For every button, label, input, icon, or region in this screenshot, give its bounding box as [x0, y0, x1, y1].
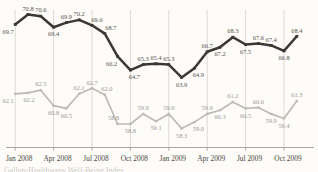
- upper-dark-series-value-label: 67.6: [253, 34, 264, 41]
- lower-gray-series-marker: [206, 113, 208, 115]
- upper-dark-series-value-label: 70.8: [22, 5, 33, 12]
- upper-dark-series-marker: [206, 50, 209, 53]
- lower-gray-series-marker: [129, 123, 131, 125]
- lower-gray-series-value-label: 59.9: [138, 104, 149, 111]
- lower-gray-series-value-label: 59.0: [193, 125, 204, 132]
- lower-gray-series-value-label: 62.7: [86, 79, 98, 86]
- upper-dark-series-value-label: 69.7: [3, 28, 15, 35]
- lower-gray-series-marker: [244, 107, 246, 109]
- x-tick-label: Jan 2009: [160, 154, 187, 163]
- upper-dark-series-value-label: 63.9: [176, 81, 187, 88]
- upper-dark-series-marker: [295, 35, 298, 38]
- upper-dark-series-value-label: 70.2: [74, 10, 85, 17]
- lower-gray-series-value-label: 60.5: [240, 112, 251, 119]
- lower-gray-series-value-label: 59.1: [150, 124, 161, 131]
- upper-dark-series-value-label: 68.7: [105, 24, 117, 31]
- lower-gray-series-value-label: 60.3: [214, 113, 225, 120]
- lower-gray-series-marker: [219, 109, 221, 111]
- upper-dark-series-marker: [78, 18, 81, 21]
- chart: Jan 2008Apr 2008Jul 2008Oct 2008Jan 2009…: [0, 0, 318, 172]
- lower-gray-series-value-label: 60.5: [61, 112, 72, 119]
- upper-dark-series-marker: [231, 36, 234, 39]
- lower-gray-series-marker: [296, 100, 298, 102]
- x-tick-label: Apr 2009: [197, 154, 225, 163]
- lower-gray-series-marker: [180, 127, 182, 129]
- line-chart-svg: Jan 2008Apr 2008Jul 2008Oct 2008Jan 2009…: [0, 0, 318, 172]
- upper-dark-series-value-label: 69.6: [91, 16, 102, 23]
- lower-gray-series-marker: [116, 123, 118, 125]
- lower-gray-series-marker: [27, 92, 29, 94]
- x-tick-label: Jul 2009: [237, 154, 263, 163]
- lower-gray-series-marker: [14, 93, 16, 95]
- lower-gray-series-marker: [168, 113, 170, 115]
- lower-gray-series-marker: [52, 105, 54, 107]
- lower-gray-series-marker: [270, 113, 272, 115]
- lower-gray-series-marker: [91, 87, 93, 89]
- upper-dark-series-marker: [270, 44, 273, 47]
- lower-gray-series-value-label: 60.6: [253, 98, 264, 105]
- x-tick-label: Oct 2008: [121, 154, 149, 163]
- lower-gray-series-marker: [257, 106, 259, 108]
- upper-dark-series-marker: [155, 62, 158, 65]
- upper-dark-series-value-label: 66.7: [202, 42, 214, 49]
- upper-dark-series-value-label: 67.2: [214, 50, 225, 57]
- lower-gray-series-marker: [193, 121, 195, 123]
- lower-gray-series-marker: [142, 113, 144, 115]
- upper-dark-series-value-label: 65.3: [138, 55, 149, 62]
- lower-gray-series-value-label: 61.2: [227, 92, 238, 99]
- lower-gray-series-value-label: 59.9: [266, 117, 277, 124]
- upper-dark-series-marker: [103, 32, 106, 35]
- lower-gray-series-marker: [65, 107, 67, 109]
- upper-dark-series-value-label: 69.4: [48, 30, 60, 37]
- upper-dark-series-value-label: 68.4: [291, 27, 303, 34]
- upper-dark-series-marker: [52, 26, 55, 29]
- lower-gray-series-value-label: 59.4: [278, 122, 290, 129]
- lower-gray-series-value-label: 62.1: [74, 84, 85, 91]
- lower-gray-series-value-label: 62.2: [23, 96, 34, 103]
- lower-gray-series-value-label: 58.3: [176, 132, 187, 139]
- lower-gray-series-value-label: 60.8: [48, 109, 59, 116]
- upper-dark-series-marker: [65, 21, 68, 24]
- upper-dark-series-marker: [14, 23, 17, 26]
- lower-gray-series-marker: [40, 89, 42, 91]
- upper-dark-series-value-label: 67.5: [240, 48, 251, 55]
- upper-dark-series-marker: [180, 76, 183, 79]
- upper-dark-series-value-label: 66.8: [278, 54, 289, 61]
- upper-dark-series-value-label: 68.3: [227, 27, 238, 34]
- lower-gray-series-value-label: 62.0: [101, 85, 112, 92]
- upper-dark-series-marker: [27, 13, 30, 16]
- lower-gray-series-value-label: 58.8: [125, 127, 136, 134]
- lower-gray-series-value-label: 59.9: [202, 104, 213, 111]
- upper-dark-series-marker: [39, 15, 42, 18]
- upper-dark-series-marker: [116, 55, 119, 58]
- upper-dark-series-marker: [167, 63, 170, 66]
- upper-dark-series-value-label: 65.3: [163, 55, 174, 62]
- upper-dark-series-marker: [283, 50, 286, 53]
- lower-gray-series-marker: [283, 117, 285, 119]
- upper-dark-series-value-label: 64.7: [129, 73, 141, 80]
- x-tick-label: Oct 2009: [274, 154, 302, 163]
- upper-dark-series-marker: [142, 63, 145, 66]
- upper-dark-series-value-label: 64.9: [193, 71, 204, 78]
- upper-dark-series-value-label: 66.2: [106, 60, 117, 67]
- upper-dark-series-marker: [193, 67, 196, 70]
- lower-gray-series-value-label: 62.5: [35, 80, 46, 87]
- upper-dark-series-value-label: 65.4: [150, 54, 162, 61]
- source-caption: Gallup-Healthways Well-Being Index: [4, 166, 124, 172]
- x-tick-label: Jul 2008: [83, 154, 109, 163]
- lower-gray-series-marker: [232, 101, 234, 103]
- upper-dark-series-value-label: 69.9: [61, 13, 72, 20]
- upper-dark-series-marker: [219, 46, 222, 49]
- upper-dark-series-marker: [244, 43, 247, 46]
- x-tick-label: Jan 2008: [6, 154, 33, 163]
- upper-dark-series-value-label: 67.4: [266, 36, 278, 43]
- x-tick-label: Apr 2008: [44, 154, 72, 163]
- lower-gray-series-marker: [78, 93, 80, 95]
- upper-dark-series-marker: [129, 69, 132, 72]
- lower-gray-series-value-label: 62.1: [3, 97, 14, 104]
- upper-dark-series-value-label: 70.6: [35, 6, 46, 13]
- upper-dark-series-marker: [257, 42, 260, 45]
- lower-gray-series-value-label: 59.9: [163, 104, 174, 111]
- lower-gray-series-marker: [104, 94, 106, 96]
- upper-dark-series-marker: [91, 24, 94, 27]
